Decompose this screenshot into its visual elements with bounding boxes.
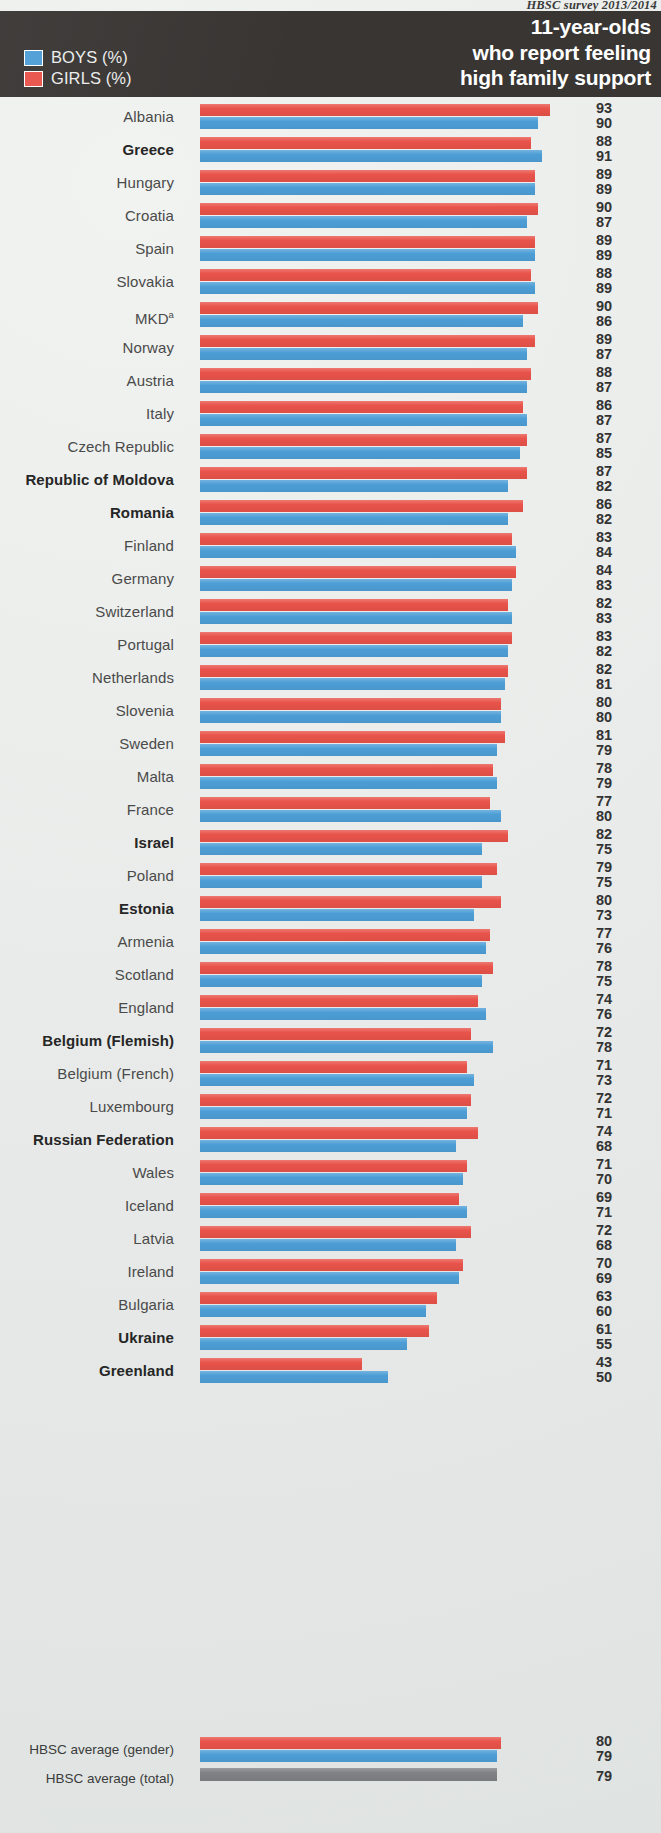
country-label: Romania	[0, 496, 174, 529]
chart-row: Russian Federation7468	[0, 1123, 661, 1156]
girls-bar	[200, 698, 501, 710]
chart-row: Wales7170	[0, 1156, 661, 1189]
country-label: Ireland	[0, 1255, 174, 1288]
girls-bar	[200, 533, 512, 545]
boys-value: 89	[596, 182, 638, 197]
boys-value: 82	[596, 644, 638, 659]
girls-value: 78	[596, 959, 638, 974]
boys-value: 76	[596, 941, 638, 956]
girls-value: 87	[596, 464, 638, 479]
row-values: 8080	[596, 695, 638, 725]
boys-bar	[200, 678, 505, 690]
girls-bar	[200, 1358, 362, 1370]
girls-value: 74	[596, 992, 638, 1007]
girls-bar	[200, 1127, 478, 1139]
row-values: 7476	[596, 992, 638, 1022]
girls-value: 81	[596, 728, 638, 743]
boys-value: 76	[596, 1007, 638, 1022]
chart-row: Austria8887	[0, 364, 661, 397]
girls-value: 88	[596, 134, 638, 149]
row-values: 9390	[596, 101, 638, 131]
boys-value: 71	[596, 1106, 638, 1121]
boys-bar	[200, 1371, 388, 1383]
country-label: Wales	[0, 1156, 174, 1189]
girls-value: 74	[596, 1124, 638, 1139]
country-label-footnote: a	[169, 309, 174, 320]
country-label: Russian Federation	[0, 1123, 174, 1156]
chart-row: Israel8275	[0, 826, 661, 859]
girls-value: 86	[596, 398, 638, 413]
girls-bar	[200, 434, 527, 446]
country-label: Scotland	[0, 958, 174, 991]
girls-bar	[200, 995, 478, 1007]
row-bars	[200, 698, 501, 723]
row-bars	[200, 1358, 388, 1383]
boys-value: 80	[596, 710, 638, 725]
girls-value: 88	[596, 365, 638, 380]
boys-value: 91	[596, 149, 638, 164]
chart-row: Croatia9087	[0, 199, 661, 232]
chart-row: Belgium (French)7173	[0, 1057, 661, 1090]
chart-row: Greece8891	[0, 133, 661, 166]
girls-value: 43	[596, 1355, 638, 1370]
average-total-label: HBSC average (total)	[0, 1766, 174, 1792]
legend-label-girls: GIRLS (%)	[51, 69, 132, 88]
row-values: 8384	[596, 530, 638, 560]
boys-value: 82	[596, 479, 638, 494]
row-bars	[200, 170, 535, 195]
boys-bar	[200, 1305, 426, 1317]
girls-value: 89	[596, 332, 638, 347]
boys-value: 50	[596, 1370, 638, 1385]
boys-bar	[200, 1008, 486, 1020]
legend-label-boys: BOYS (%)	[51, 48, 128, 67]
row-bars	[200, 137, 542, 162]
girls-value: 63	[596, 1289, 638, 1304]
row-bars	[200, 236, 535, 261]
boys-value: 90	[596, 116, 638, 131]
boys-bar	[200, 216, 527, 228]
boys-bar	[200, 1338, 407, 1350]
girls-bar	[200, 1259, 463, 1271]
boys-bar	[200, 579, 512, 591]
country-label: Switzerland	[0, 595, 174, 628]
boys-bar	[200, 1107, 467, 1119]
chart-row: Netherlands8281	[0, 661, 661, 694]
girls-bar	[200, 335, 535, 347]
country-label: Ukraine	[0, 1321, 174, 1354]
boys-bar	[200, 1239, 456, 1251]
girls-bar	[200, 863, 497, 875]
country-label: Poland	[0, 859, 174, 892]
chart-row: Luxembourg7271	[0, 1090, 661, 1123]
boys-bar	[200, 480, 508, 492]
row-bars	[200, 335, 535, 360]
row-bars	[200, 434, 527, 459]
title-line-1: 11-year-olds	[460, 14, 651, 40]
girls-value: 80	[596, 695, 638, 710]
girls-value: 89	[596, 233, 638, 248]
row-values: 6360	[596, 1289, 638, 1319]
boys-bar	[200, 1041, 493, 1053]
country-label: Luxembourg	[0, 1090, 174, 1123]
girls-value: 72	[596, 1223, 638, 1238]
boys-bar	[200, 975, 482, 987]
boys-bar	[200, 348, 527, 360]
chart-row: Bulgaria6360	[0, 1288, 661, 1321]
chart-header: 11-year-olds who report feeling high fam…	[0, 11, 661, 97]
girls-value: 86	[596, 497, 638, 512]
girls-value: 83	[596, 530, 638, 545]
boys-value: 82	[596, 512, 638, 527]
country-label: Sweden	[0, 727, 174, 760]
row-bars	[200, 797, 501, 822]
row-values: 8682	[596, 497, 638, 527]
row-values: 8782	[596, 464, 638, 494]
boys-value: 79	[596, 776, 638, 791]
country-label: Greece	[0, 133, 174, 166]
boys-value: 68	[596, 1139, 638, 1154]
girls-bar	[200, 1226, 471, 1238]
row-bars	[200, 467, 527, 492]
girls-bar	[200, 1028, 471, 1040]
girls-bar	[200, 1292, 437, 1304]
girls-value: 71	[596, 1157, 638, 1172]
girls-value: 71	[596, 1058, 638, 1073]
boys-bar	[200, 282, 535, 294]
